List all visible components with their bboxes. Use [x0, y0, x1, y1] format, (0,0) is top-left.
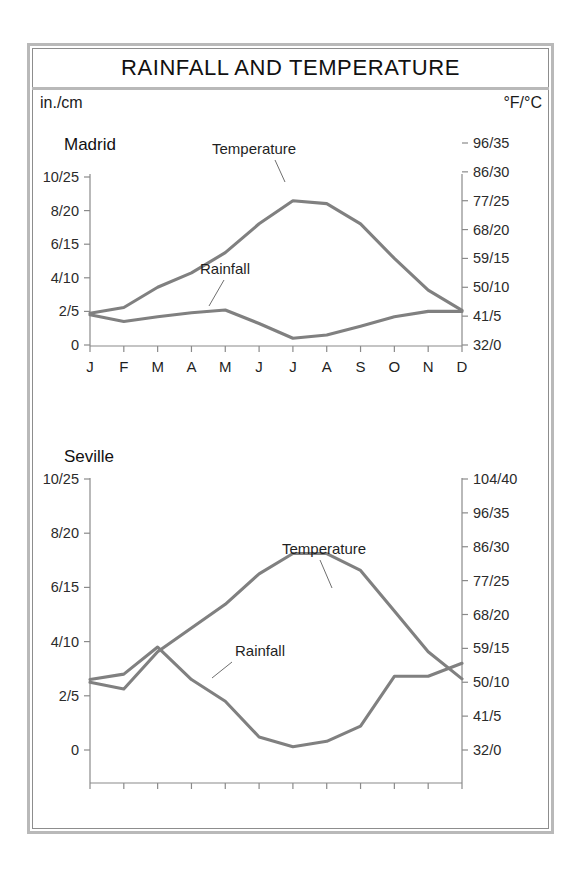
right-tick-label: 32/0: [473, 742, 501, 758]
month-label-m-4: M: [219, 358, 232, 375]
seville-chart: 10/258/206/154/102/50104/4096/3586/3077/…: [32, 440, 549, 800]
annotation-label-rainfall: Rainfall: [235, 642, 285, 659]
left-tick-label: 4/10: [51, 270, 79, 286]
right-tick-label: 96/35: [473, 135, 509, 151]
left-tick-label: 4/10: [51, 634, 79, 650]
month-label-s-8: S: [356, 358, 366, 375]
left-tick-label: 0: [71, 742, 79, 758]
madrid-chart: 10/258/206/154/102/5096/3586/3077/2568/2…: [32, 118, 549, 418]
right-tick-label: 41/5: [473, 308, 501, 324]
right-tick-label: 50/10: [473, 279, 509, 295]
units-row: in./cm °F/°C: [40, 94, 542, 116]
chart-title-bar: RAINFALL AND TEMPERATURE: [32, 48, 549, 90]
series-line-rainfall: [90, 310, 462, 338]
series-line-temperature: [90, 554, 462, 690]
city-name-label: Madrid: [64, 135, 116, 154]
annotation-leader-temperature: [275, 160, 285, 182]
left-tick-label: 8/20: [51, 525, 79, 541]
series-line-rainfall: [90, 647, 462, 747]
left-tick-label: 2/5: [59, 303, 79, 319]
left-tick-label: 6/15: [51, 579, 79, 595]
seville-chart-svg: 10/258/206/154/102/50104/4096/3586/3077/…: [32, 440, 549, 800]
annotation-leader-temperature: [320, 560, 332, 588]
month-label-j-5: J: [255, 358, 263, 375]
right-tick-label: 77/25: [473, 573, 509, 589]
month-label-a-7: A: [322, 358, 332, 375]
annotation-leader-rainfall: [212, 662, 232, 678]
right-tick-label: 59/15: [473, 640, 509, 656]
annotation-label-temperature: Temperature: [282, 540, 366, 557]
right-tick-label: 68/20: [473, 222, 509, 238]
month-label-a-3: A: [186, 358, 196, 375]
left-tick-label: 0: [71, 337, 79, 353]
madrid-chart-svg: 10/258/206/154/102/5096/3586/3077/2568/2…: [32, 118, 549, 418]
month-label-n-10: N: [423, 358, 434, 375]
left-tick-label: 10/25: [43, 471, 79, 487]
right-tick-label: 86/30: [473, 539, 509, 555]
left-tick-label: 6/15: [51, 236, 79, 252]
right-tick-label: 41/5: [473, 708, 501, 724]
right-tick-label: 68/20: [473, 607, 509, 623]
page-title: RAINFALL AND TEMPERATURE: [121, 55, 460, 81]
month-label-o-9: O: [389, 358, 401, 375]
month-label-j-0: J: [86, 358, 94, 375]
month-label-f-1: F: [119, 358, 128, 375]
right-tick-label: 59/15: [473, 250, 509, 266]
month-label-j-6: J: [289, 358, 297, 375]
annotation-label-temperature: Temperature: [212, 140, 296, 157]
right-tick-label: 96/35: [473, 505, 509, 521]
left-axis-unit-label: in./cm: [40, 94, 83, 112]
left-tick-label: 8/20: [51, 203, 79, 219]
left-tick-label: 10/25: [43, 169, 79, 185]
right-tick-label: 104/40: [473, 471, 517, 487]
right-tick-label: 50/10: [473, 674, 509, 690]
right-axis-unit-label: °F/°C: [503, 94, 542, 112]
month-label-m-2: M: [151, 358, 164, 375]
right-tick-label: 86/30: [473, 164, 509, 180]
annotation-leader-rainfall: [209, 280, 224, 306]
right-tick-label: 32/0: [473, 337, 501, 353]
annotation-label-rainfall: Rainfall: [200, 260, 250, 277]
city-name-label: Seville: [64, 447, 114, 466]
month-label-d-11: D: [457, 358, 468, 375]
left-tick-label: 2/5: [59, 688, 79, 704]
right-tick-label: 77/25: [473, 193, 509, 209]
climate-chart-page: RAINFALL AND TEMPERATURE in./cm °F/°C 10…: [0, 0, 583, 876]
series-line-temperature: [90, 201, 462, 314]
